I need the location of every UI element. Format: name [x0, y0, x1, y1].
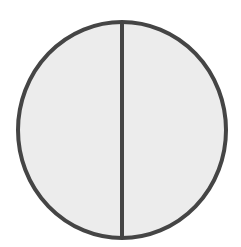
halved-circle-figure	[0, 0, 241, 247]
diagram-canvas	[0, 0, 241, 247]
